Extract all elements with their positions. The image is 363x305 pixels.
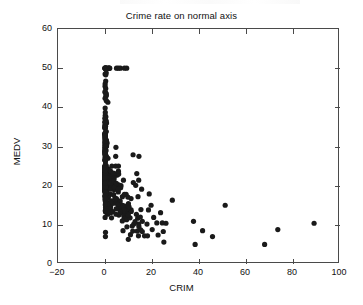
plot-area	[57, 28, 339, 263]
chart-title: Crime rate on normal axis	[0, 10, 363, 21]
x-axis-label: CRIM	[0, 282, 363, 293]
x-tick-label: 80	[272, 267, 312, 277]
y-tick-label: 20	[24, 180, 52, 190]
x-tick-label: 0	[84, 267, 124, 277]
x-tick-label: 100	[319, 267, 359, 277]
scatter-canvas	[58, 29, 340, 264]
cropped-text-artifact	[120, 0, 300, 4]
y-tick-label: 40	[24, 101, 52, 111]
y-tick-label: 50	[24, 62, 52, 72]
y-axis-label: MEDV	[11, 122, 22, 182]
x-tick-label: 40	[178, 267, 218, 277]
y-tick-label: 60	[24, 23, 52, 33]
x-tick-label: 20	[131, 267, 171, 277]
figure-container: Crime rate on normal axis 0102030405060 …	[0, 0, 363, 305]
y-tick-label: 30	[24, 141, 52, 151]
x-tick-label: −20	[37, 267, 77, 277]
y-tick-label: 10	[24, 219, 52, 229]
x-tick-label: 60	[225, 267, 265, 277]
